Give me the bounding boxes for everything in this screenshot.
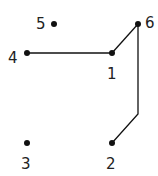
node-label-5: 5	[36, 15, 46, 33]
edges-layer	[27, 24, 138, 143]
edge-1-6	[112, 24, 138, 53]
labels-layer: 123456	[8, 14, 155, 173]
node-label-2: 2	[106, 155, 116, 173]
node-4	[24, 50, 30, 56]
node-1	[109, 50, 115, 56]
node-5	[51, 21, 57, 27]
node-6	[135, 21, 141, 27]
node-label-6: 6	[145, 14, 155, 32]
node-label-1: 1	[107, 65, 117, 83]
node-label-4: 4	[8, 49, 18, 67]
graph-canvas: 123456	[0, 0, 158, 176]
node-2	[109, 140, 115, 146]
edge-6-2	[112, 24, 138, 143]
node-label-3: 3	[21, 155, 31, 173]
node-3	[24, 140, 30, 146]
